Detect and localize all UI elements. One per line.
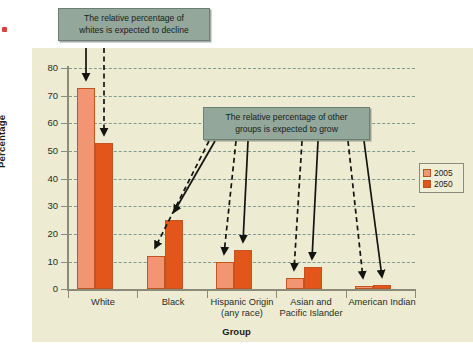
gridline-70 xyxy=(69,96,415,97)
y-axis-line xyxy=(67,66,69,291)
bar-black-2050 xyxy=(165,220,183,289)
callout-other-line2: groups is expected to grow xyxy=(210,124,363,136)
bar-hispanic-2050 xyxy=(234,250,252,289)
y-tick-20 xyxy=(61,234,67,235)
category-label-american-indian-line1: American Indian xyxy=(334,297,430,308)
callout-white-line2: whites is expected to decline xyxy=(65,25,203,37)
legend: 2005 2050 xyxy=(419,163,464,193)
y-tick-40 xyxy=(61,179,67,180)
gridline-50 xyxy=(69,151,415,152)
bar-black-2005 xyxy=(147,256,165,289)
y-tick-60 xyxy=(61,123,67,124)
y-tick-50 xyxy=(61,151,67,152)
x-axis-title: Group xyxy=(0,326,473,337)
legend-item-2005: 2005 xyxy=(423,167,459,178)
callout-white-line1: The relative percentage of xyxy=(65,13,203,25)
y-tick-80 xyxy=(61,68,67,69)
callout-other-groups: The relative percentage of other groups … xyxy=(203,107,370,140)
legend-label-2050: 2050 xyxy=(434,179,453,189)
y-tick-label-60: 60 xyxy=(34,117,58,128)
legend-swatch-2005-icon xyxy=(423,169,431,177)
gridline-30 xyxy=(69,206,415,207)
y-tick-label-40: 40 xyxy=(34,173,58,184)
y-tick-label-70: 70 xyxy=(34,90,58,101)
y-tick-label-50: 50 xyxy=(34,145,58,156)
bar-asian-2005 xyxy=(286,278,304,289)
category-label-american-indian: American Indian xyxy=(334,297,430,308)
y-tick-label-80: 80 xyxy=(34,62,58,73)
bar-hispanic-2005 xyxy=(216,262,234,289)
category-label-asian-line2: Pacific Islander xyxy=(263,308,359,319)
gridline-40 xyxy=(69,179,415,180)
y-tick-label-20: 20 xyxy=(34,228,58,239)
callout-white: The relative percentage of whites is exp… xyxy=(58,8,210,41)
y-tick-0 xyxy=(61,289,67,290)
legend-item-2050: 2050 xyxy=(423,178,459,189)
y-tick-label-0: 0 xyxy=(34,283,58,294)
x-axis-line xyxy=(67,289,416,291)
callout-other-line1: The relative percentage of other xyxy=(210,112,363,124)
legend-label-2005: 2005 xyxy=(434,168,453,178)
y-tick-70 xyxy=(61,96,67,97)
bar-american-indian-2005 xyxy=(355,286,373,289)
bar-asian-2050 xyxy=(304,267,322,289)
chart-screenshot: 80 70 60 50 40 30 20 10 0 Percentage Gro… xyxy=(0,0,473,352)
y-tick-label-10: 10 xyxy=(34,256,58,267)
y-axis-title: Percentage xyxy=(0,115,7,168)
y-tick-30 xyxy=(61,206,67,207)
page-margin-mark xyxy=(2,27,7,32)
gridline-80 xyxy=(69,68,415,69)
bar-american-indian-2050 xyxy=(373,285,391,289)
bar-white-2050 xyxy=(95,143,113,289)
legend-swatch-2050-icon xyxy=(423,180,431,188)
gridline-20 xyxy=(69,234,415,235)
y-tick-10 xyxy=(61,262,67,263)
bar-white-2005 xyxy=(77,88,95,289)
y-tick-label-30: 30 xyxy=(34,200,58,211)
